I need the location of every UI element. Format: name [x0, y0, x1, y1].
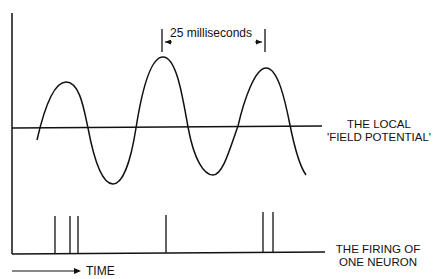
field-potential-label: THE LOCAL 'FIELD POTENTIAL': [324, 118, 434, 144]
firing-label-line1: THE FIRING OF: [328, 243, 428, 256]
time-label: TIME: [86, 265, 115, 278]
field-label-line2: 'FIELD POTENTIAL': [324, 131, 434, 144]
neuron-spikes: [55, 212, 273, 254]
spike-baseline: [12, 252, 325, 254]
field-label-line1: THE LOCAL: [324, 118, 434, 131]
field-potential-wave: [37, 57, 306, 184]
interval-label: 25 milliseconds: [168, 26, 254, 40]
arrow-right-icon: [256, 40, 262, 45]
firing-label: THE FIRING OF ONE NEURON: [328, 243, 428, 269]
arrow-right-icon: [74, 268, 81, 274]
firing-label-line2: ONE NEURON: [328, 256, 428, 269]
field-baseline: [12, 126, 322, 128]
arrow-left-icon: [165, 40, 171, 45]
